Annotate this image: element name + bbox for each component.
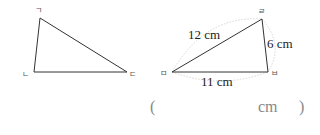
answer-close-paren: ) xyxy=(299,98,304,116)
side-11cm: 11 cm xyxy=(201,74,233,89)
vertex-top-right: ㄹ xyxy=(258,7,265,16)
triangle-left xyxy=(34,18,127,72)
vertex-top-left: ㄱ xyxy=(35,6,42,15)
vertex-bottom-right-b: ㅂ xyxy=(271,69,278,78)
vertex-bottom-left: ㄴ xyxy=(22,70,29,79)
answer-unit: cm xyxy=(258,98,278,116)
answer-open-paren: ( xyxy=(150,98,155,116)
vertex-bottom-right: ㄷ xyxy=(129,70,136,79)
side-6cm: 6 cm xyxy=(267,36,293,51)
vertex-left: ㅁ xyxy=(160,69,167,78)
side-12cm: 12 cm xyxy=(188,27,220,42)
